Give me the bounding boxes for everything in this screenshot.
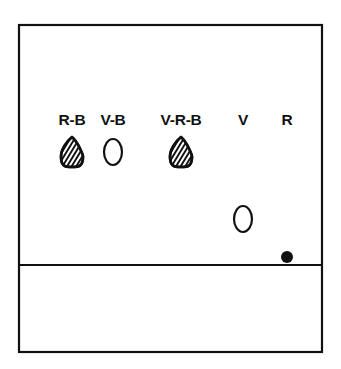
column-label-r-b: R-B <box>59 111 86 128</box>
symbol-filled-dot-r <box>281 251 293 263</box>
figure-canvas: R-B V-B V-R-B V R <box>0 0 341 369</box>
column-label-v: V <box>238 111 249 128</box>
column-label-r: R <box>282 111 293 128</box>
filled-dot-shape <box>281 251 293 263</box>
column-label-v-b: V-B <box>100 111 125 128</box>
column-label-v-r-b: V-R-B <box>160 111 201 128</box>
figure-container: R-B V-B V-R-B V R <box>0 0 341 369</box>
outer-frame-border <box>19 25 322 352</box>
